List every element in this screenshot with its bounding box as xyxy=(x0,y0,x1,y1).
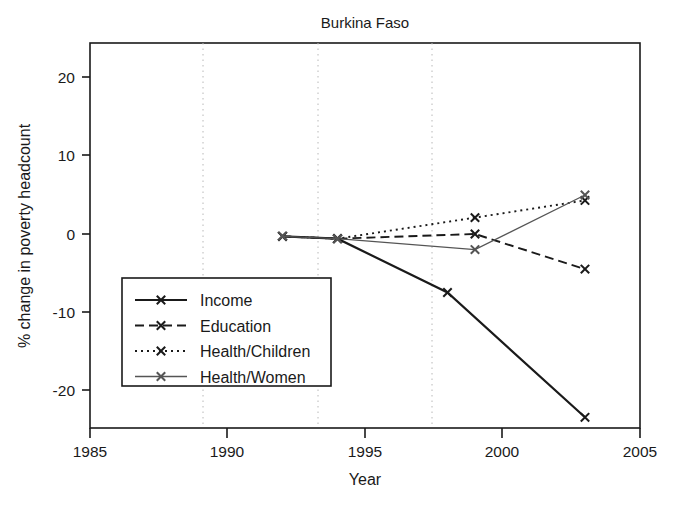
y-tick-label: 20 xyxy=(58,69,76,86)
x-axis-label: Year xyxy=(349,471,382,488)
legend-label: Health/Women xyxy=(200,369,306,386)
series-education xyxy=(278,230,589,273)
y-tick-label: 10 xyxy=(58,147,76,164)
y-tick-marks xyxy=(82,77,90,390)
x-tick-label: 2000 xyxy=(485,443,520,460)
x-tick-marks xyxy=(90,428,640,438)
chart-legend: IncomeEducationHealth/ChildrenHealth/Wom… xyxy=(122,278,331,386)
x-tick-label: 1995 xyxy=(348,443,382,460)
chart-figure: Burkina Faso 20 10 0 -10 -20 xyxy=(0,0,675,509)
legend-label: Health/Children xyxy=(200,343,310,360)
series-health-children xyxy=(278,196,589,243)
y-axis-label: % change in poverty headcount xyxy=(16,123,33,348)
y-tick-label: -10 xyxy=(53,304,76,321)
y-tick-label: -20 xyxy=(53,382,76,399)
y-tick-label: 0 xyxy=(66,226,75,243)
legend-label: Education xyxy=(200,318,271,335)
chart-svg: Burkina Faso 20 10 0 -10 -20 xyxy=(0,0,675,509)
x-tick-label: 2005 xyxy=(623,443,657,460)
chart-title: Burkina Faso xyxy=(321,14,409,31)
series-health-women xyxy=(278,191,589,254)
x-tick-label: 1985 xyxy=(73,443,107,460)
x-tick-label: 1990 xyxy=(210,443,245,460)
legend-label: Income xyxy=(200,292,253,309)
